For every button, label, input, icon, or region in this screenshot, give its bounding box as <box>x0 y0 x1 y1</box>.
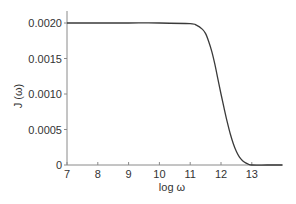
series-line <box>67 23 283 165</box>
y-tick-label: 0.0005 <box>28 124 62 136</box>
x-tick-label: 8 <box>95 168 101 180</box>
x-axis-label: log ω <box>159 181 186 193</box>
x-tick-label: 12 <box>215 168 227 180</box>
y-tick-label: 0 <box>56 159 62 171</box>
chart: 00.00050.00100.00150.0020 78910111213 lo… <box>0 0 296 204</box>
y-axis-label: J (ω) <box>12 84 24 108</box>
x-tick-label: 11 <box>184 168 195 180</box>
y-tick-label: 0.0010 <box>28 88 62 100</box>
x-tick-label: 10 <box>153 168 165 180</box>
x-tick-label: 9 <box>126 168 132 180</box>
x-tick-label: 13 <box>246 168 258 180</box>
y-tick-label: 0.0015 <box>28 53 62 65</box>
y-tick-label: 0.0020 <box>28 17 62 29</box>
x-tick-label: 7 <box>64 168 70 180</box>
y-axis: 00.00050.00100.00150.0020 <box>28 11 67 171</box>
